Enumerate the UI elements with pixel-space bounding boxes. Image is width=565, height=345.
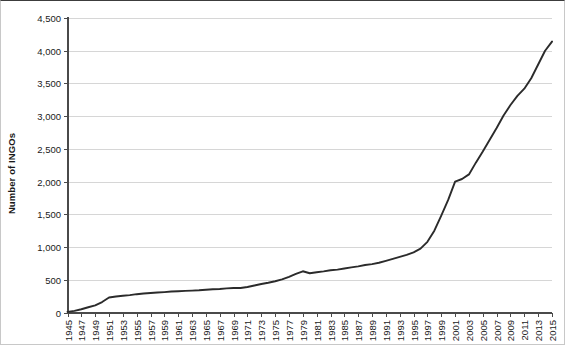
y-tick-label: 2,000 — [37, 177, 61, 188]
x-tick-label: 1993 — [395, 320, 406, 341]
x-tick-label: 2013 — [533, 320, 544, 341]
x-tick-label: 1989 — [367, 320, 378, 341]
x-tick-label: 1963 — [187, 320, 198, 341]
x-tick-label: 1965 — [201, 320, 212, 341]
y-tick-label: 1,500 — [37, 209, 61, 220]
y-tick-label: 3,000 — [37, 111, 61, 122]
x-tick-label: 1953 — [118, 320, 129, 341]
x-tick-label: 1981 — [312, 320, 323, 341]
x-tick-label: 1959 — [159, 320, 170, 341]
x-tick-label: 2001 — [450, 320, 461, 341]
x-tick-label: 1973 — [256, 320, 267, 341]
y-tick-label: 4,500 — [37, 13, 61, 24]
x-tick-label: 1987 — [353, 320, 364, 341]
x-tick-label: 1967 — [215, 320, 226, 341]
x-tick-label: 1975 — [270, 320, 281, 341]
y-tick-label: 2,500 — [37, 144, 61, 155]
y-tick-label: 1,000 — [37, 242, 61, 253]
y-tick-label: 0 — [56, 308, 61, 319]
x-tick-label: 1997 — [422, 320, 433, 341]
x-tick-label: 1947 — [76, 320, 87, 341]
x-tick-label: 1961 — [173, 320, 184, 341]
x-tick-label: 1969 — [229, 320, 240, 341]
x-tick-label: 2003 — [464, 320, 475, 341]
x-tick-label: 1951 — [104, 320, 115, 341]
line-chart: 05001,0001,5002,0002,5003,0003,5004,0004… — [1, 1, 565, 345]
x-tick-label: 1971 — [242, 320, 253, 341]
x-tick-label: 1999 — [436, 320, 447, 341]
x-tick-label: 1995 — [409, 320, 420, 341]
x-tick-label: 2011 — [519, 320, 530, 340]
x-tick-label: 1955 — [132, 320, 143, 341]
x-tick-label: 1945 — [63, 320, 74, 341]
x-tick-label: 1949 — [90, 320, 101, 341]
y-tick-label: 500 — [45, 275, 61, 286]
x-tick-label: 1979 — [298, 320, 309, 341]
x-tick-label: 1977 — [284, 320, 295, 341]
x-tick-label: 2015 — [547, 320, 558, 341]
x-tick-label: 2005 — [478, 320, 489, 341]
chart-plot-area: 05001,0001,5002,0002,5003,0003,5004,0004… — [1, 1, 565, 345]
y-tick-label: 4,000 — [37, 46, 61, 57]
chart-frame: Number of INGOs 05001,0001,5002,0002,500… — [0, 0, 565, 345]
x-tick-label: 1991 — [381, 320, 392, 341]
data-series-line — [68, 42, 553, 312]
y-tick-label: 3,500 — [37, 78, 61, 89]
x-tick-label: 1985 — [339, 320, 350, 341]
x-tick-label: 2007 — [492, 320, 503, 341]
x-tick-label: 1957 — [146, 320, 157, 341]
x-tick-label: 2009 — [505, 320, 516, 341]
x-tick-label: 1983 — [326, 320, 337, 341]
